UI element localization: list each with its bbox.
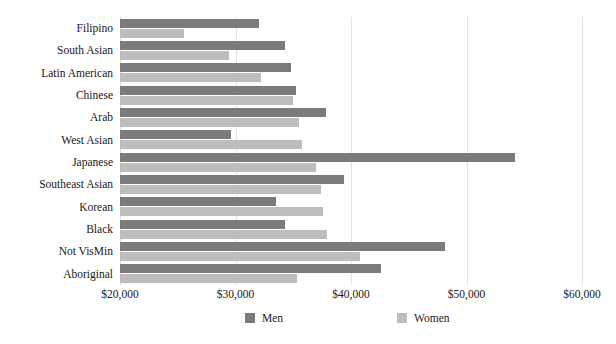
bar-men: [120, 153, 515, 162]
chart-title-clipped: [118, 0, 132, 4]
category-label: Korean: [0, 196, 113, 218]
category-label: Chinese: [0, 84, 113, 106]
value-tick-label: $30,000: [217, 288, 254, 300]
bar-women: [120, 140, 302, 149]
bar-chart: FilipinoSouth AsianLatin AmericanChinese…: [0, 0, 616, 344]
category-label: West Asian: [0, 129, 113, 151]
gridline: [582, 17, 583, 285]
category-label: Japanese: [0, 151, 113, 173]
legend-item-women: Women: [397, 312, 449, 324]
bar-men: [120, 242, 445, 251]
category-label: Filipino: [0, 17, 113, 39]
bar-men: [120, 130, 231, 139]
bar-men: [120, 108, 326, 117]
bar-women: [120, 163, 316, 172]
value-tick-label: $40,000: [332, 288, 369, 300]
bar-group: [120, 84, 582, 106]
bar-men: [120, 86, 296, 95]
bar-group: [120, 62, 582, 84]
bar-women: [120, 73, 261, 82]
legend-label-men: Men: [262, 312, 283, 324]
category-axis-labels: FilipinoSouth AsianLatin AmericanChinese…: [0, 17, 113, 285]
bar-group: [120, 106, 582, 128]
bar-women: [120, 207, 323, 216]
bar-women: [120, 230, 327, 239]
bar-men: [120, 63, 291, 72]
bar-women: [120, 118, 299, 127]
bar-women: [120, 274, 297, 283]
bar-group: [120, 129, 582, 151]
category-label: South Asian: [0, 39, 113, 61]
legend-swatch-men: [245, 313, 255, 323]
bar-men: [120, 175, 344, 184]
bar-men: [120, 220, 285, 229]
category-label: Arab: [0, 106, 113, 128]
bar-men: [120, 41, 285, 50]
bar-group: [120, 196, 582, 218]
legend-label-women: Women: [414, 312, 449, 324]
bar-women: [120, 252, 360, 261]
value-tick-label: $60,000: [563, 288, 600, 300]
chart-legend: Men Women: [0, 312, 616, 332]
bar-women: [120, 51, 229, 60]
bar-men: [120, 19, 259, 28]
value-tick-label: $50,000: [448, 288, 485, 300]
plot-area: [120, 17, 582, 285]
category-label: Latin American: [0, 62, 113, 84]
value-axis-labels: $20,000$30,000$40,000$50,000$60,000: [0, 288, 616, 308]
bar-women: [120, 185, 321, 194]
legend-swatch-women: [397, 313, 407, 323]
legend-item-men: Men: [245, 312, 283, 324]
bar-group: [120, 218, 582, 240]
bar-men: [120, 264, 381, 273]
value-tick-label: $20,000: [101, 288, 138, 300]
bar-group: [120, 39, 582, 61]
bar-group: [120, 263, 582, 285]
bar-women: [120, 29, 184, 38]
bar-men: [120, 197, 276, 206]
bar-group: [120, 173, 582, 195]
bar-group: [120, 151, 582, 173]
category-label: Southeast Asian: [0, 173, 113, 195]
category-label: Aboriginal: [0, 263, 113, 285]
bar-group: [120, 17, 582, 39]
category-label: Not VisMin: [0, 240, 113, 262]
bar-group: [120, 240, 582, 262]
bar-women: [120, 96, 293, 105]
category-label: Black: [0, 218, 113, 240]
